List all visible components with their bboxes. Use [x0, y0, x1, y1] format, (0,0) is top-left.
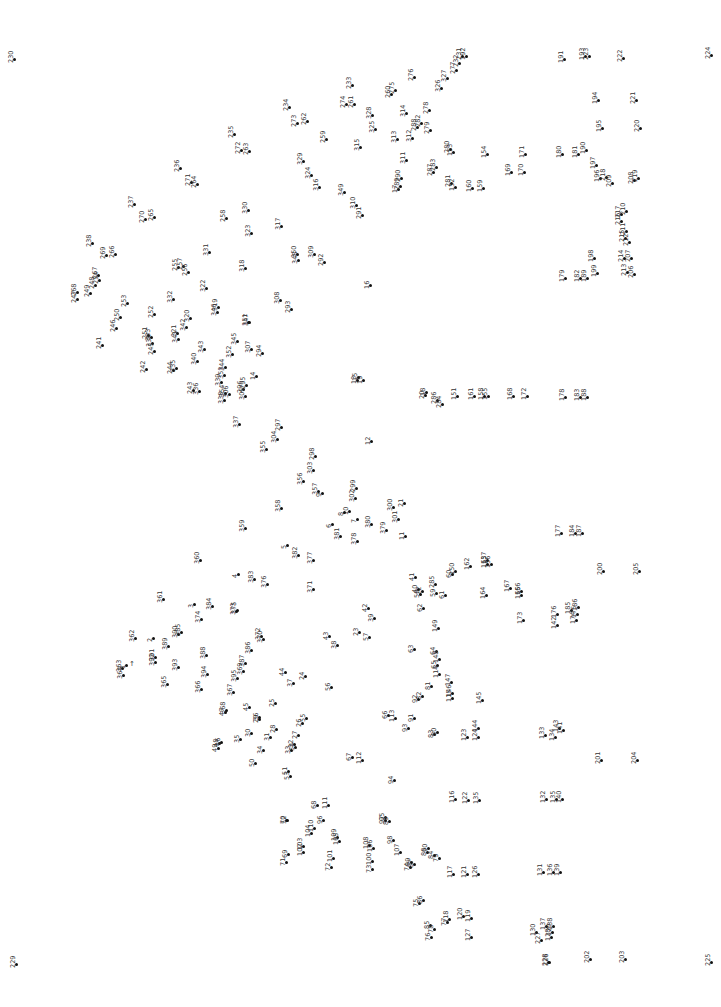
- dot-number-label: 252: [148, 306, 155, 318]
- dot-number-label: 331: [203, 244, 210, 256]
- dot-number-label: 235: [228, 126, 235, 138]
- dot-number-label: 219: [632, 170, 639, 182]
- dot-number-label: 117: [447, 866, 454, 878]
- dot-number-label: 230: [8, 51, 15, 63]
- dot-number-label: 291: [356, 207, 363, 219]
- dot-number-label: 173: [517, 612, 524, 624]
- dot-number-label: 249: [84, 285, 91, 297]
- dot-number-label: 24: [299, 672, 306, 680]
- dot-number-label: 226: [543, 954, 550, 966]
- dot-number-label: 178: [559, 389, 566, 401]
- dot-number-label: 86: [417, 896, 424, 904]
- dot-number-label: 35: [234, 735, 241, 743]
- dot-number-label: 278: [423, 102, 430, 114]
- dot-number-label: 149: [432, 620, 439, 632]
- dot-number-label: 203: [619, 951, 626, 963]
- dot-number-label: 159: [477, 180, 484, 192]
- dot-number-label: 2: [147, 638, 154, 642]
- dot-number-label: 8: [338, 512, 345, 516]
- dot-number-label: 350: [291, 246, 298, 258]
- dot-number-label: 301: [392, 511, 399, 523]
- dot-number-label: 205: [633, 563, 640, 575]
- dot-number-label: 16: [364, 281, 371, 289]
- dot-number-label: 39: [368, 614, 375, 622]
- dot-number-label: 45: [243, 703, 250, 711]
- dot-number-label: 161: [468, 388, 475, 400]
- dot-number-label: 29: [253, 715, 260, 723]
- dot-number-label: 289: [394, 178, 401, 190]
- dot-number-label: 222: [617, 50, 624, 62]
- dot-number-label: 265: [148, 209, 155, 221]
- dot-number-label: 139: [554, 864, 561, 876]
- dot-number-label: 370: [257, 631, 264, 643]
- dot-number-label: 393: [172, 659, 179, 671]
- dot-number-label: 72: [325, 863, 332, 871]
- dot-number-label: 266: [109, 246, 116, 258]
- dot-number-label: 19: [357, 376, 364, 384]
- dot-number-label: 379: [380, 522, 387, 534]
- dot-number-label: 198: [588, 250, 595, 262]
- dot-number-label: 154: [481, 146, 488, 158]
- dot-number-label: 356: [297, 473, 304, 485]
- dot-number-label: 114: [433, 666, 440, 678]
- dot-number-label: 49: [212, 744, 219, 752]
- dot-number-label: 112: [356, 752, 363, 764]
- dot-number-label: 367: [227, 684, 234, 696]
- dot-number-label: 241: [96, 337, 103, 349]
- dot-number-label: 89: [383, 817, 390, 825]
- dot-number-label: 41: [409, 573, 416, 581]
- dot-number-label: 59: [430, 589, 437, 597]
- dot-number-label: 61: [439, 591, 446, 599]
- dot-number-label: 223: [583, 48, 590, 60]
- dot-number-label: 303: [307, 462, 314, 474]
- dot-number-label: 328: [366, 107, 373, 119]
- dot-number-label: 162: [464, 558, 471, 570]
- dot-number-label: 365: [161, 676, 168, 688]
- dot-number-label: 27: [292, 731, 299, 739]
- dot-number-label: 128: [545, 929, 552, 941]
- dot-number-label: 56: [325, 683, 332, 691]
- dot-number-label: 192: [460, 48, 467, 60]
- dot-number-label: 141: [557, 722, 564, 734]
- dot-number-label: 26: [296, 719, 303, 727]
- dot-number-label: 44: [279, 668, 286, 676]
- dot-number-label: 121: [461, 866, 468, 878]
- dot-number-label: 172: [521, 388, 528, 400]
- dot-number-label: 340: [191, 353, 198, 365]
- dot-number-label: 62: [417, 604, 424, 612]
- dot-number-label: 220: [634, 120, 641, 132]
- dot-number-label: 394: [201, 666, 208, 678]
- dot-number-label: 6: [326, 524, 333, 528]
- dot-number-label: 191: [558, 51, 565, 63]
- dot-number-label: 152: [449, 179, 456, 191]
- dot-number-label: 305: [239, 388, 246, 400]
- dot-number-label: 229: [10, 956, 17, 968]
- dot-number-label: 28: [270, 725, 277, 733]
- dot-number-label: 318: [239, 260, 246, 272]
- dot-number-label: 247: [71, 291, 78, 303]
- dot-number-label: 351: [242, 314, 249, 326]
- dot-number-label: 264: [191, 176, 198, 188]
- dot-number-label: 274: [340, 96, 347, 108]
- dot-number-label: 57: [363, 633, 370, 641]
- dot-number-label: 179: [559, 270, 566, 282]
- dot-number-label: 94: [388, 776, 395, 784]
- dot-number-label: 273: [291, 115, 298, 127]
- dot-number-label: 285: [429, 576, 436, 588]
- dot-number-label: 170: [518, 164, 525, 176]
- dot-number-label: 107: [394, 844, 401, 856]
- dot-number-label: 302: [349, 490, 356, 502]
- dot-number-label: 76: [425, 933, 432, 941]
- dot-number-label: 80: [431, 728, 438, 736]
- dot-to-dot-puzzle-page: 2302242292252332742612342732622592352722…: [0, 0, 721, 1007]
- dot-number-label: 253: [121, 295, 128, 307]
- dot-number-label: 188: [581, 389, 588, 401]
- dot-number-label: 116: [449, 791, 456, 803]
- dot-number-label: 81: [425, 682, 432, 690]
- dot-number-label: 174: [570, 612, 577, 624]
- dot-number-label: 71: [280, 858, 287, 866]
- dot-number-label: 156: [485, 556, 492, 568]
- dot-number-label: 100: [366, 853, 373, 865]
- dot-number-label: 127: [465, 929, 472, 941]
- dot-number-label: 277: [450, 62, 457, 74]
